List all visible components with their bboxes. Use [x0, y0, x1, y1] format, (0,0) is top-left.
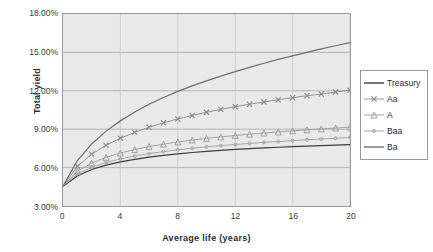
x-axis-tick-label: 4 [117, 211, 122, 221]
legend-item-treasury[interactable]: Treasury [363, 75, 425, 91]
y-axis-ticks: 3.00%6.00%9.00%12.00%15.00%18.00% [6, 0, 58, 252]
legend-item-baa[interactable]: Baa [363, 123, 425, 139]
legend-marker-icon [363, 140, 385, 154]
y-axis-tick-label: 6.00% [10, 163, 58, 173]
legend-item-ba[interactable]: Ba [363, 139, 425, 155]
legend-label: Ba [385, 142, 397, 152]
x-axis-tick-label: 0 [60, 211, 65, 221]
legend-item-a[interactable]: A [363, 107, 425, 123]
plot-area [62, 13, 351, 207]
legend-label: Baa [385, 126, 402, 136]
y-axis-tick-label: 18.00% [10, 8, 58, 18]
y-axis-tick-label: 9.00% [10, 124, 58, 134]
legend-item-aa[interactable]: Aa [363, 91, 425, 107]
legend-label: Treasury [385, 78, 420, 88]
y-axis-tick-label: 3.00% [10, 202, 58, 212]
legend-marker-icon [363, 92, 385, 106]
x-axis-tick-label: 16 [288, 211, 297, 221]
legend-marker-icon [363, 76, 385, 90]
y-axis-tick-label: 15.00% [10, 47, 58, 57]
x-axis-tick-label: 12 [231, 211, 240, 221]
legend-marker-icon [363, 108, 385, 122]
x-axis-title: Average life (years) [62, 233, 351, 243]
chart-container: Total yield 3.00%6.00%9.00%12.00%15.00%1… [0, 0, 433, 252]
plot-svg [63, 14, 350, 206]
y-axis-tick-label: 12.00% [10, 86, 58, 96]
legend-marker-icon [363, 124, 385, 138]
x-axis-tick-label: 8 [175, 211, 180, 221]
legend-label: A [385, 110, 393, 120]
chart-legend: TreasuryAaABaaBa [360, 70, 428, 160]
x-axis-tick-label: 20 [346, 211, 355, 221]
legend-label: Aa [385, 94, 397, 104]
